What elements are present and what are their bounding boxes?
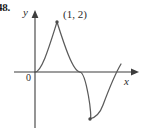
y-axis-label: y [23, 7, 28, 18]
origin-label: 0 [26, 73, 31, 83]
exercise-figure: 48. y x 0 (1, 2) [0, 0, 141, 131]
local-minimum-marker [88, 117, 91, 120]
y-axis-arrowhead [32, 10, 39, 18]
curve-path [35, 22, 121, 119]
local-maximum-marker [55, 20, 58, 23]
point-coordinate-label: (1, 2) [63, 9, 87, 20]
x-axis-arrowhead [131, 68, 139, 75]
x-axis-label: x [124, 76, 129, 87]
